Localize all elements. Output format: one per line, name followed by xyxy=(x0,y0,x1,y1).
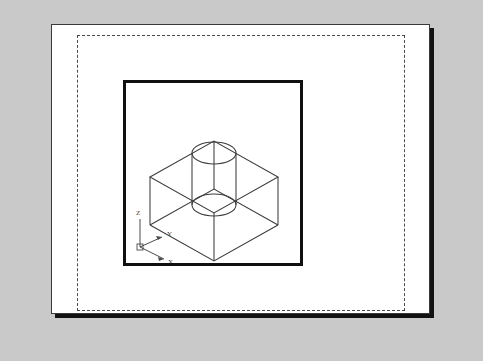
paper-shadow-right xyxy=(430,28,434,318)
ucs-y-axis-label: Y xyxy=(167,230,172,238)
isometric-block-wireframe xyxy=(150,141,278,261)
cad-layout-screen: Z Y X xyxy=(0,0,483,361)
viewport-drawing-canvas: Z Y X xyxy=(126,83,300,263)
paper-shadow-bottom xyxy=(55,314,434,318)
ucs-x-axis-label: X xyxy=(168,258,173,263)
ucs-x-axis-line xyxy=(140,247,164,259)
model-space-viewport[interactable]: Z Y X xyxy=(123,80,303,266)
ucs-coordinate-icon: Z Y X xyxy=(136,209,173,263)
ucs-z-axis-label: Z xyxy=(136,209,140,217)
